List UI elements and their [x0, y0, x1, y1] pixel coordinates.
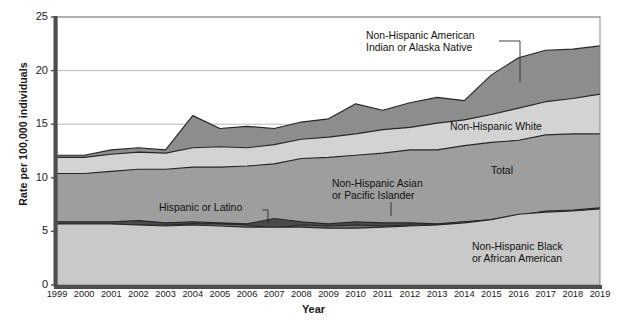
annotation-asian-line1: Non-Hispanic Asian	[332, 178, 423, 190]
annotation-american-indian: Non-Hispanic American Indian or Alaska N…	[366, 30, 475, 55]
annotation-total: Total	[491, 165, 513, 177]
annotation-american-indian-line1: Non-Hispanic American	[366, 30, 475, 42]
x-tick-label-2019: 2019	[583, 289, 617, 299]
y-tick-label-20: 20	[18, 64, 48, 76]
annotation-black-line2: or African American	[472, 253, 563, 265]
annotation-black-line1: Non-Hispanic Black	[472, 241, 563, 253]
y-tick-label-5: 5	[18, 224, 48, 236]
annotation-non-hispanic-white: Non-Hispanic White	[450, 121, 542, 133]
annotation-asian-pacific-islander: Non-Hispanic Asian or Pacific Islander	[332, 178, 423, 203]
chart-figure: Rate per 100,000 individuals Year 051015…	[0, 0, 627, 329]
annotation-hispanic-or-latino: Hispanic or Latino	[159, 202, 242, 214]
annotation-american-indian-line2: Indian or Alaska Native	[366, 42, 475, 54]
annotation-black-african-american: Non-Hispanic Black or African American	[472, 241, 563, 266]
y-tick-label-10: 10	[18, 171, 48, 183]
y-tick-label-25: 25	[18, 10, 48, 22]
area-chart-plot	[0, 0, 627, 329]
annotation-asian-line2: or Pacific Islander	[332, 190, 423, 202]
y-tick-label-15: 15	[18, 117, 48, 129]
